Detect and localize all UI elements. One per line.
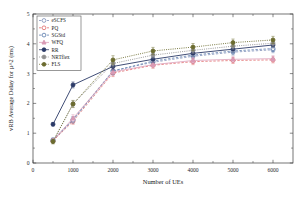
y-tick-label: 5	[27, 11, 30, 17]
chart-canvas: 0100020003000400050006000012345Number of…	[0, 0, 308, 197]
x-tick-label: 4000	[187, 167, 198, 173]
legend-label-fls: FLS	[52, 61, 61, 67]
data-point	[71, 102, 75, 106]
y-tick-label: 0	[27, 160, 30, 166]
legend-label-rr: RR	[52, 47, 59, 53]
x-tick-label: 3000	[147, 167, 158, 173]
legend-marker-nrtflex	[42, 55, 46, 59]
y-tick-label: 2	[27, 100, 30, 106]
legend-label-wfq: WFQ	[52, 39, 64, 45]
data-point	[271, 38, 275, 42]
y-axis-label: vRB Average Delay for µ^2 (ms)	[7, 46, 15, 131]
legend-marker-fls	[42, 62, 46, 66]
x-tick-label: 1000	[67, 167, 78, 173]
data-point	[51, 140, 55, 144]
data-point	[151, 49, 155, 53]
data-point	[111, 58, 115, 62]
legend-marker-sgstd	[42, 33, 46, 37]
x-tick-label: 2000	[107, 167, 118, 173]
legend-label-escfs: eSCFS	[52, 17, 67, 23]
x-tick-label: 0	[32, 167, 35, 173]
data-point	[231, 41, 235, 45]
legend-label-pq: PQ	[52, 25, 59, 31]
legend-label-nrtflex: NRTflex	[52, 54, 71, 60]
legend-marker-pq	[42, 26, 46, 30]
legend-marker-escfs	[42, 19, 46, 23]
y-tick-label: 1	[27, 130, 30, 136]
y-tick-label: 4	[27, 41, 30, 47]
legend-marker-rr	[42, 48, 46, 52]
y-tick-label: 3	[27, 71, 30, 77]
figure-container: 0100020003000400050006000012345Number of…	[0, 0, 308, 197]
data-point	[71, 83, 75, 87]
x-axis-label: Number of UEs	[143, 178, 184, 185]
data-point	[191, 45, 195, 49]
legend-label-sgstd: SGStd	[52, 32, 66, 38]
x-tick-label: 5000	[227, 167, 238, 173]
data-point	[51, 122, 55, 126]
x-tick-label: 6000	[267, 167, 278, 173]
